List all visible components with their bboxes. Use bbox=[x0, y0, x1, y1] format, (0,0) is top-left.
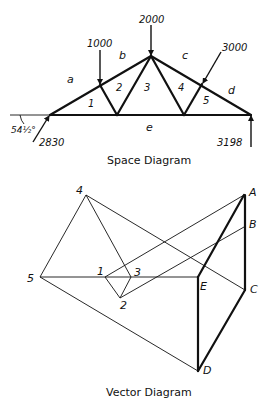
load-3000-arrow bbox=[203, 52, 221, 83]
space-diagram-caption: Space Diagram bbox=[107, 154, 191, 167]
vector-4-3 bbox=[86, 195, 131, 277]
truss-diagram-canvas: 1000 2000 3000 2830 3198 54½° a b c d e … bbox=[0, 0, 277, 408]
vector-C-D bbox=[198, 290, 245, 371]
space-label-b: b bbox=[119, 49, 126, 62]
vector-5-4 bbox=[40, 195, 86, 277]
vector-point-2: 2 bbox=[120, 299, 127, 312]
space-diagram: 1000 2000 3000 2830 3198 54½° a b c d e … bbox=[10, 14, 251, 167]
reaction-right-label: 3198 bbox=[217, 137, 242, 148]
space-label-e: e bbox=[146, 121, 153, 134]
space-label-d: d bbox=[228, 84, 236, 97]
web-member-1 bbox=[100, 85, 117, 115]
panel-label-5: 5 bbox=[203, 95, 209, 106]
vector-2-B bbox=[120, 227, 244, 298]
vector-diagram-caption: Vector Diagram bbox=[106, 386, 192, 399]
vector-diagram: A B C D E 1 2 3 4 5 Vector Diagram bbox=[27, 184, 258, 399]
load-1000-label: 1000 bbox=[87, 38, 112, 49]
web-member-4 bbox=[184, 84, 202, 115]
reaction-left-label: 2830 bbox=[39, 137, 64, 148]
vector-point-C: C bbox=[250, 283, 258, 296]
load-arrows bbox=[33, 25, 251, 147]
vector-point-3: 3 bbox=[134, 266, 141, 279]
panel-label-2: 2 bbox=[116, 82, 122, 93]
space-label-a: a bbox=[67, 73, 74, 86]
space-label-c: c bbox=[182, 49, 188, 62]
panel-label-3: 3 bbox=[144, 82, 150, 93]
vector-point-4: 4 bbox=[76, 184, 83, 197]
vector-point-A: A bbox=[248, 186, 257, 199]
vector-A-E bbox=[198, 195, 244, 277]
vector-point-B: B bbox=[249, 218, 257, 231]
panel-label-4: 4 bbox=[178, 82, 184, 93]
vector-1-A bbox=[105, 195, 244, 277]
load-3000-label: 3000 bbox=[222, 42, 247, 53]
reaction-left-angle-label: 54½° bbox=[11, 125, 36, 135]
vector-1-2 bbox=[105, 277, 120, 298]
panel-label-1: 1 bbox=[88, 98, 94, 109]
angle-arc bbox=[20, 115, 24, 124]
vector-point-5: 5 bbox=[27, 272, 34, 285]
load-2000-label: 2000 bbox=[139, 14, 164, 25]
vector-5-D bbox=[40, 277, 198, 371]
vector-point-D: D bbox=[203, 364, 211, 377]
vector-point-E: E bbox=[200, 280, 207, 293]
vector-4-C bbox=[86, 195, 245, 290]
truss-members bbox=[50, 56, 251, 115]
vector-point-1: 1 bbox=[97, 265, 104, 278]
